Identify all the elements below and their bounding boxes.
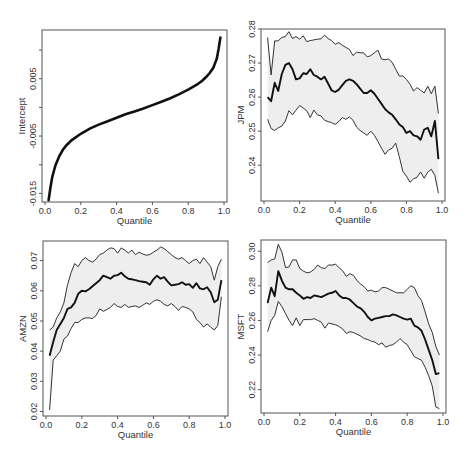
panel-intercept: 0.00.20.40.60.81.0Quantile-0.015-0.0050.… — [16, 30, 230, 226]
x-axis-label: Quantile — [117, 215, 152, 226]
x-tick-label: 0.8 — [183, 420, 196, 430]
x-tick-label: 0.0 — [258, 205, 271, 215]
panel-msft: 0.00.20.40.60.81.0Quantile0.220.240.260.… — [235, 240, 449, 437]
plot-frame — [42, 30, 227, 202]
y-tick-label: 0.04 — [29, 342, 39, 360]
y-tick-label: -0.015 — [28, 181, 38, 207]
x-axis-label: Quantile — [336, 426, 371, 437]
y-tick-label: 0.28 — [247, 20, 257, 38]
y-tick-label: 0.26 — [247, 88, 257, 106]
y-tick-label: 0.05 — [29, 312, 39, 330]
y-tick-label: 0.30 — [247, 242, 257, 260]
y-tick-label: 0.03 — [29, 373, 39, 391]
x-tick-label: 0.8 — [400, 205, 413, 215]
confidence-band — [50, 247, 222, 410]
y-axis-label: AMZN — [17, 315, 28, 342]
y-tick-label: 0.27 — [247, 54, 257, 72]
x-axis-label: Quantile — [118, 429, 153, 440]
y-axis-label: MSFT — [235, 313, 246, 339]
y-tick-label: 0.24 — [247, 156, 257, 174]
confidence-band — [268, 244, 440, 408]
x-tick-label: 1.0 — [436, 205, 449, 215]
x-tick-label: 0.8 — [182, 206, 195, 216]
y-axis-label: Intercept — [16, 97, 27, 134]
y-tick-label: 0.22 — [247, 381, 257, 399]
x-tick-label: 1.0 — [218, 206, 231, 216]
y-tick-label: 0.02 — [29, 403, 39, 421]
y-tick-label: -0.005 — [28, 123, 38, 149]
x-tick-label: 0.0 — [258, 417, 271, 427]
x-tick-label: 0.2 — [293, 205, 306, 215]
x-tick-label: 1.0 — [219, 420, 232, 430]
panel-amzn: 0.00.20.40.60.81.0Quantile0.020.030.040.… — [17, 241, 231, 440]
x-tick-label: 0.2 — [76, 420, 89, 430]
x-tick-label: 0.0 — [40, 420, 53, 430]
y-tick-label: 0.06 — [29, 282, 39, 300]
y-tick-label: 0.26 — [247, 312, 257, 330]
estimate-line — [49, 38, 221, 201]
y-axis-label: JPM — [235, 105, 246, 124]
quantile-regression-figure: 0.00.20.40.60.81.0Quantile-0.015-0.0050.… — [0, 0, 468, 453]
y-tick-label: 0.25 — [247, 122, 257, 140]
y-tick-label: 0.24 — [247, 346, 257, 364]
x-tick-label: 0.2 — [294, 417, 307, 427]
y-tick-label: 0.07 — [29, 252, 39, 270]
x-axis-label: Quantile — [335, 214, 370, 225]
y-tick-label: 0.28 — [247, 277, 257, 295]
y-tick-label: 0.005 — [28, 67, 38, 90]
x-tick-label: 0.2 — [75, 206, 88, 216]
x-tick-label: 1.0 — [437, 417, 450, 427]
x-tick-label: 0.0 — [39, 206, 52, 216]
panel-jpm: 0.00.20.40.60.81.0Quantile0.240.250.260.… — [235, 20, 448, 225]
x-tick-label: 0.8 — [401, 417, 414, 427]
